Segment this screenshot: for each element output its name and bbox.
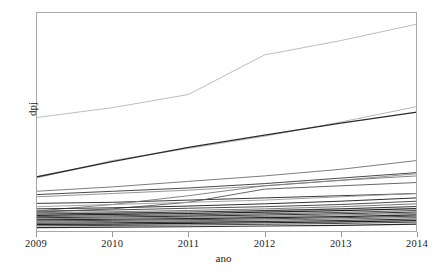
x-tick: [265, 232, 266, 237]
x-tick: [188, 232, 189, 237]
x-tick: [112, 232, 113, 237]
series-line: [36, 24, 417, 118]
x-tick-label: 2013: [330, 238, 352, 249]
x-axis-title: ano: [0, 252, 447, 264]
plot-area: [36, 12, 417, 232]
line-chart: 200920102011201220132014 ano dpj: [0, 0, 447, 275]
series-line: [36, 194, 417, 204]
series-line: [36, 173, 417, 195]
x-axis: 200920102011201220132014: [36, 232, 417, 254]
x-tick: [417, 232, 418, 237]
x-tick-label: 2010: [101, 238, 123, 249]
y-axis-title: dpj: [26, 89, 38, 129]
x-tick-label: 2009: [25, 238, 47, 249]
x-tick-label: 2011: [178, 238, 199, 249]
x-tick: [341, 232, 342, 237]
series-layer: [36, 12, 417, 232]
x-tick-label: 2014: [406, 238, 428, 249]
x-tick-label: 2012: [254, 238, 276, 249]
x-tick: [36, 232, 37, 237]
